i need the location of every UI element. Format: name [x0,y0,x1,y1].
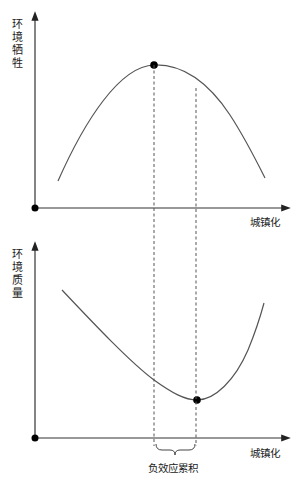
bottom-y-axis-label: 环境质量 [11,248,23,300]
brace-label: 负效应累积 [148,460,198,475]
bottom-x-axis-label: 城镇化 [250,445,280,460]
top-x-axis-label: 城镇化 [250,214,280,229]
top-origin-dot [32,205,39,212]
top-inverted-u-curve [58,65,265,181]
diagram-canvas [0,0,303,484]
bottom-origin-dot [32,435,39,442]
curly-brace [156,444,195,455]
bottom-u-curve [62,290,264,400]
bottom-minimum-dot [193,396,201,404]
top-y-axis-label: 环境牺牲 [11,18,23,70]
